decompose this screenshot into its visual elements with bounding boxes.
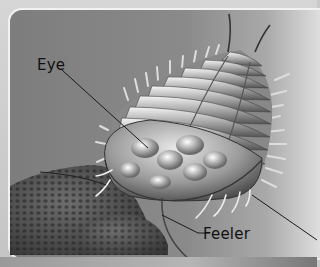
leg-leader-line [252,195,317,240]
trilobite-illustration [0,0,317,267]
bottom-frame-strip [0,257,317,267]
eye-label: Eye [37,56,65,74]
feeler-label: Feeler [203,225,250,243]
